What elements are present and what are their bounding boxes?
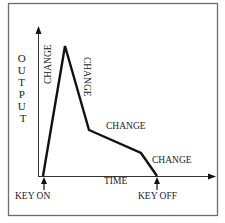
release-change-label: CHANGE (152, 155, 192, 165)
key-off-arrow-icon (154, 177, 160, 184)
envelope-diagram: O U T P U T CHANGE CHANGE CHANGE CHANGE … (0, 0, 225, 223)
key-on-label: KEY ON (15, 191, 50, 201)
y-axis-label: O U T P U T (18, 52, 29, 124)
x-axis-label: TIME (104, 176, 127, 186)
x-axis-arrow-icon (208, 174, 216, 180)
envelope-curve (43, 46, 157, 176)
key-on-arrow-icon (41, 177, 47, 184)
attack-change-label: CHANGE (43, 44, 53, 84)
sustain-change-label: CHANGE (106, 121, 146, 131)
decay-change-label: CHANGE (82, 57, 92, 97)
y-axis-arrow-icon (36, 26, 42, 34)
key-off-label: KEY OFF (138, 191, 177, 201)
